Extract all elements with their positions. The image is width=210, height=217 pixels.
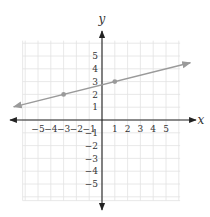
x-tick-label: 1 [112,124,118,134]
y-tick-label: −2 [85,141,98,151]
data-point [61,92,66,97]
x-tick-label: 3 [138,124,144,134]
y-tick-label: 4 [92,64,98,74]
y-tick-label: 2 [92,90,98,100]
x-tick-label: 2 [125,124,131,134]
x-axis-label: x [198,113,205,127]
y-tick-label: 5 [92,51,98,61]
x-tick-label: 5 [163,124,169,134]
x-tick-label: 4 [150,124,156,134]
x-tick-label: −5 [31,124,45,134]
coordinate-plane: −5−4−3−2−112345−5−4−3−2−112345xy [0,0,210,217]
y-tick-label: −1 [85,128,98,138]
y-tick-label: −5 [85,179,99,189]
grid-lines [23,41,180,201]
x-tick-label: −2 [70,124,83,134]
y-tick-label: −4 [85,166,99,176]
y-tick-label: 3 [92,77,98,87]
y-tick-label: −3 [85,154,99,164]
x-tick-label: −4 [44,124,58,134]
y-tick-label: 1 [92,102,98,112]
y-axis-label: y [98,12,106,26]
data-point [112,79,117,84]
x-tick-label: −3 [57,124,71,134]
